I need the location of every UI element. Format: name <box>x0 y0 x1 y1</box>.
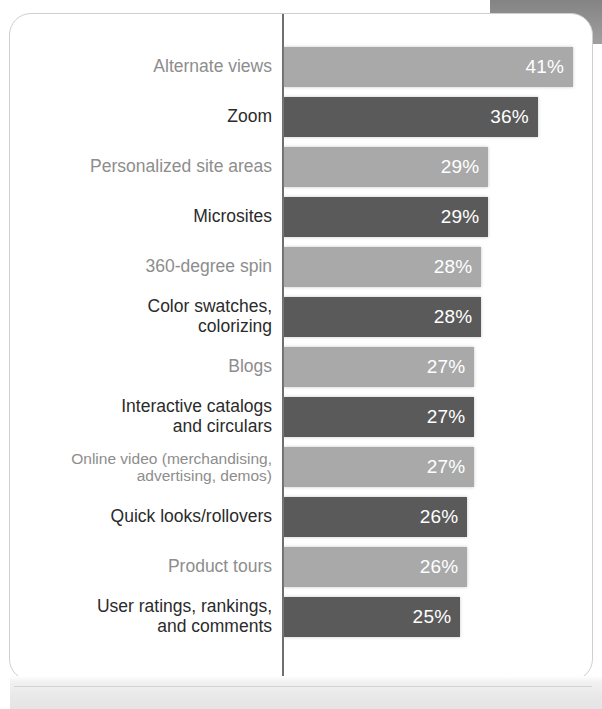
bar: 28% <box>284 247 481 287</box>
bar-category-label: Zoom <box>10 92 272 142</box>
bar-row: Quick looks/rollovers26% <box>0 492 602 542</box>
bar-category-label-line: and comments <box>97 617 272 637</box>
bar-row: Personalized site areas29% <box>0 142 602 192</box>
bar: 36% <box>284 97 538 137</box>
bar-row: Blogs27% <box>0 342 602 392</box>
bar-wrapper: 29% <box>284 147 488 187</box>
bar-category-label-line: Product tours <box>168 557 272 577</box>
bar-category-label: Online video (merchandising,advertising,… <box>10 442 272 492</box>
bar: 29% <box>284 197 488 237</box>
bar-value-label: 29% <box>441 206 480 228</box>
bar-wrapper: 27% <box>284 397 474 437</box>
bar-value-label: 26% <box>420 506 459 528</box>
bar-value-label: 28% <box>434 306 473 328</box>
bar-category-label-line: Microsites <box>193 207 272 227</box>
bar-value-label: 36% <box>490 106 529 128</box>
bar-category-label-line: Personalized site areas <box>90 157 272 177</box>
bar-category-label-line: Interactive catalogs <box>121 397 272 417</box>
bar-category-label: User ratings, rankings,and comments <box>10 592 272 642</box>
bar: 27% <box>284 347 474 387</box>
bar-wrapper: 26% <box>284 497 467 537</box>
scan-artifact-left-edge <box>0 676 10 709</box>
bar-row: Online video (merchandising,advertising,… <box>0 442 602 492</box>
bar: 41% <box>284 47 573 87</box>
bar-category-label-line: advertising, demos) <box>71 467 272 484</box>
bar-row: Microsites29% <box>0 192 602 242</box>
bar-category-label: Interactive catalogsand circulars <box>10 392 272 442</box>
bar-value-label: 28% <box>434 256 473 278</box>
bar-row: 360-degree spin28% <box>0 242 602 292</box>
scan-artifact-bottom <box>0 676 602 709</box>
bar-category-label: Personalized site areas <box>10 142 272 192</box>
bar-wrapper: 28% <box>284 247 481 287</box>
bar: 28% <box>284 297 481 337</box>
bar-category-label-line: and circulars <box>121 417 272 437</box>
bar-wrapper: 26% <box>284 547 467 587</box>
bar-row: Interactive catalogsand circulars27% <box>0 392 602 442</box>
bar-value-label: 41% <box>525 56 564 78</box>
bar-category-label: 360-degree spin <box>10 242 272 292</box>
bar-wrapper: 27% <box>284 447 474 487</box>
bar-row: User ratings, rankings,and comments25% <box>0 592 602 642</box>
bar-value-label: 29% <box>441 156 480 178</box>
bar: 26% <box>284 497 467 537</box>
bar-wrapper: 29% <box>284 197 488 237</box>
bar-chart-rows: Alternate views41%Zoom36%Personalized si… <box>0 42 602 642</box>
bar-wrapper: 28% <box>284 297 481 337</box>
bar-wrapper: 41% <box>284 47 573 87</box>
bar-category-label-line: Alternate views <box>153 57 272 77</box>
bar-category-label: Microsites <box>10 192 272 242</box>
bar-row: Color swatches,colorizing28% <box>0 292 602 342</box>
bar-value-label: 27% <box>427 406 466 428</box>
bar-category-label-line: Blogs <box>228 357 272 377</box>
scan-artifact-bottom-line <box>14 686 592 687</box>
bar-value-label: 26% <box>420 556 459 578</box>
bar: 27% <box>284 397 474 437</box>
bar-wrapper: 25% <box>284 597 460 637</box>
bar-value-label: 25% <box>413 606 452 628</box>
bar-category-label-line: User ratings, rankings, <box>97 597 272 617</box>
bar-category-label-line: Online video (merchandising, <box>71 450 272 467</box>
bar-value-label: 27% <box>427 356 466 378</box>
bar-category-label-line: 360-degree spin <box>146 257 272 277</box>
bar: 26% <box>284 547 467 587</box>
chart-page: Alternate views41%Zoom36%Personalized si… <box>0 0 602 709</box>
bar-category-label: Color swatches,colorizing <box>10 292 272 342</box>
bar-category-label: Product tours <box>10 542 272 592</box>
bar-row: Product tours26% <box>0 542 602 592</box>
bar: 29% <box>284 147 488 187</box>
bar-row: Zoom36% <box>0 92 602 142</box>
bar-value-label: 27% <box>427 456 466 478</box>
bar: 27% <box>284 447 474 487</box>
bar-category-label-line: Zoom <box>227 107 272 127</box>
bar-category-label-line: colorizing <box>148 317 273 337</box>
bar-category-label: Blogs <box>10 342 272 392</box>
bar-wrapper: 36% <box>284 97 538 137</box>
bar-category-label: Quick looks/rollovers <box>10 492 272 542</box>
bar-category-label: Alternate views <box>10 42 272 92</box>
bar-row: Alternate views41% <box>0 42 602 92</box>
bar-category-label-line: Color swatches, <box>148 297 273 317</box>
bar: 25% <box>284 597 460 637</box>
bar-category-label-line: Quick looks/rollovers <box>111 507 272 527</box>
bar-wrapper: 27% <box>284 347 474 387</box>
